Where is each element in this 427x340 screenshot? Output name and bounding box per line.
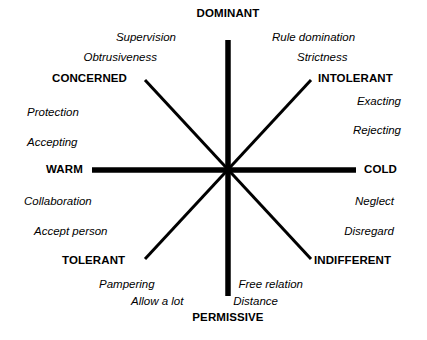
pole-label-permissive: PERMISSIVE [192,312,263,324]
trait-label-disregard: Disregard [344,226,394,238]
trait-label-obtrusiveness: Obtrusiveness [83,52,157,64]
trait-label-pampering: Pampering [99,279,155,291]
quadrant-label-intolerant: INTOLERANT [318,73,393,85]
trait-label-collaboration: Collaboration [24,196,92,208]
pole-label-cold: COLD [364,164,397,176]
trait-label-rejecting: Rejecting [353,125,401,137]
trait-label-neglect: Neglect [355,196,394,208]
trait-label-exacting: Exacting [357,96,401,108]
trait-label-supervision: Supervision [116,32,176,44]
pole-label-dominant: DOMINANT [197,8,260,20]
quadrant-label-tolerant: TOLERANT [62,255,125,267]
quadrant-label-indifferent: INDIFFERENT [314,255,391,267]
trait-label-accepting: Accepting [27,137,78,149]
trait-label-free-relation: Free relation [238,279,303,291]
quadrant-label-concerned: CONCERNED [52,73,127,85]
trait-label-accept-person: Accept person [34,226,108,238]
trait-label-protection: Protection [27,107,79,119]
circumplex-diagram: DOMINANT PERMISSIVE WARM COLD CONCERNED … [0,0,427,340]
pole-label-warm: WARM [46,164,83,176]
trait-label-strictness: Strictness [297,52,348,64]
trait-label-allow-a-lot: Allow a lot [131,296,183,308]
trait-label-rule-domination: Rule domination [272,32,355,44]
trait-label-distance: Distance [233,296,278,308]
